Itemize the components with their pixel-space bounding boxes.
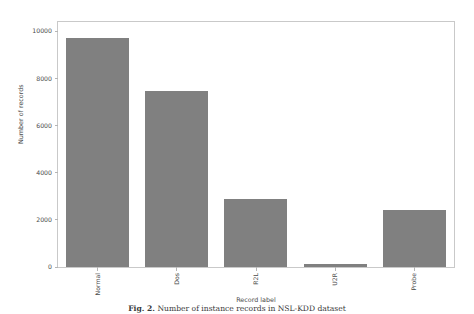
x-tick-label: U2R — [332, 260, 338, 273]
bar-dos — [145, 22, 208, 267]
x-tick-label: R2L — [253, 261, 259, 273]
y-tick-mark — [55, 125, 59, 126]
y-tick-mark — [55, 172, 59, 173]
figure-container: Number of records 0200040006000800010000… — [0, 0, 474, 314]
bar-r2l — [224, 22, 287, 267]
bar-rect — [145, 91, 208, 267]
y-tick-label: 10000 — [32, 28, 52, 34]
caption-lead: Fig. 2. — [128, 305, 155, 313]
bar-normal — [66, 22, 129, 267]
y-tick-label: 4000 — [36, 170, 52, 176]
y-tick-label: 0 — [48, 264, 52, 270]
y-tick-mark — [55, 219, 59, 220]
bar-rect — [66, 38, 129, 267]
caption-text: Number of instance records in NSL-KDD da… — [157, 305, 345, 313]
y-tick-mark — [55, 78, 59, 79]
bar-probe — [383, 22, 446, 267]
y-tick-label: 2000 — [36, 217, 52, 223]
figure-caption: Fig. 2. Number of instance records in NS… — [0, 305, 474, 313]
plot-area: 0200040006000800010000 NormalDosR2LU2RPr… — [57, 21, 455, 268]
bar-group — [58, 22, 454, 267]
y-tick-mark — [55, 31, 59, 32]
y-tick-mark — [55, 267, 59, 268]
bar-rect — [224, 199, 287, 267]
x-tick-label: Dos — [174, 261, 180, 273]
y-tick-label: 6000 — [36, 123, 52, 129]
bar-u2r — [304, 22, 367, 267]
x-tick-label: Probe — [411, 255, 417, 273]
y-tick-label: 8000 — [36, 75, 52, 81]
x-tick-label: Normal — [94, 251, 100, 273]
x-axis-label: Record label — [57, 297, 455, 303]
y-axis-label: Number of records — [18, 84, 24, 144]
